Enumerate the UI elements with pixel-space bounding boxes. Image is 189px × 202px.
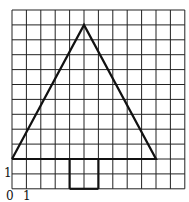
origin-label: 0 <box>6 190 14 202</box>
grid-diagram <box>0 0 189 202</box>
x-axis-unit-label: 1 <box>23 190 31 202</box>
y-axis-unit-label: 1 <box>4 167 12 179</box>
